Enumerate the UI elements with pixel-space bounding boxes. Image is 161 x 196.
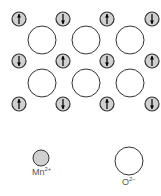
mn-ion [56, 12, 70, 26]
mn-ion [12, 12, 26, 26]
mn-ion [12, 54, 26, 68]
o-ion [72, 69, 100, 97]
mn-ion [56, 97, 70, 111]
mn-ion [145, 97, 159, 111]
o-ion [116, 26, 144, 54]
legend-mn-symbol [33, 150, 49, 166]
legend-mn-label: Mn2+ [32, 166, 51, 177]
o-ion [116, 69, 144, 97]
mn-ion [145, 12, 159, 26]
mn-ion [56, 54, 70, 68]
crystal-lattice [0, 0, 161, 196]
mn-ion [145, 54, 159, 68]
mn-ion [100, 54, 114, 68]
o-ion [28, 26, 56, 54]
o-ion [72, 26, 100, 54]
legend-o-symbol [115, 147, 143, 175]
mn-ion [100, 12, 114, 26]
mn-ion [100, 97, 114, 111]
mn-ion [12, 97, 26, 111]
legend-o-label: O2− [122, 176, 136, 187]
o-ion [28, 69, 56, 97]
